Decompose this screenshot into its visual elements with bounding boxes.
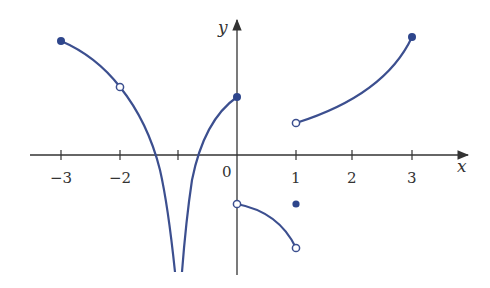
function-graph: −3 −2 0 1 2 3 x y xyxy=(0,0,490,288)
tick-label-1: 1 xyxy=(291,169,301,187)
x-axis-label: x xyxy=(457,156,467,176)
tick-label-neg2: −2 xyxy=(109,169,131,187)
curve-middle-lower xyxy=(237,204,296,248)
open-point xyxy=(292,244,299,251)
graph-figure: −3 −2 0 1 2 3 x y xyxy=(0,0,490,288)
filled-point xyxy=(57,37,65,45)
tick-label-neg3: −3 xyxy=(50,169,72,187)
tick-label-2: 2 xyxy=(347,169,357,187)
filled-point xyxy=(233,93,241,101)
tick-label-3: 3 xyxy=(407,169,417,187)
filled-point xyxy=(292,200,299,207)
open-point xyxy=(292,119,299,126)
open-point xyxy=(233,200,240,207)
filled-point xyxy=(408,33,416,41)
curve-right-branch xyxy=(296,37,412,123)
curve-left-branch xyxy=(61,41,175,272)
open-point xyxy=(116,83,123,90)
tick-label-zero: 0 xyxy=(222,163,232,181)
curve-asymptote-right-branch xyxy=(182,97,237,272)
y-axis-label: y xyxy=(217,17,228,37)
